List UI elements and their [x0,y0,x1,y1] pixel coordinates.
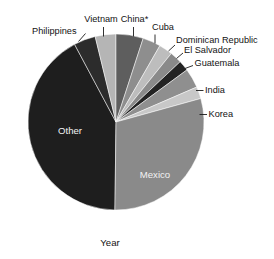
chart-axis-label-year: Year [100,237,120,248]
pie-label-other: Other [58,125,83,136]
pie-label-india: India [205,85,226,95]
leader-line-guatemala [185,66,193,69]
pie-label-philippines: Philippines [32,26,77,36]
pie-label-vietnam: Vietnam [84,14,118,24]
pie-label-mexico: Mexico [140,169,170,180]
pie-label-el-salvador: El Salvador [184,45,231,55]
pie-chart-svg: Philippines Vietnam China* Cuba Dominica… [0,0,274,259]
pie-label-korea: Korea [209,109,234,119]
pie-chart-figure: Philippines Vietnam China* Cuba Dominica… [0,0,274,259]
pie-slices [28,34,204,210]
pie-label-cuba: Cuba [152,22,175,32]
pie-label-china: China* [121,14,149,24]
pie-label-guatemala: Guatemala [195,58,241,68]
leader-line-dominican-republic [169,45,176,51]
leader-line-el-salvador [177,53,184,59]
pie-label-dominican-republic: Dominican Republic [176,35,258,45]
